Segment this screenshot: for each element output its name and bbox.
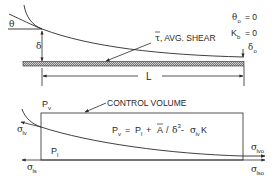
length-label: L xyxy=(146,71,152,82)
svg-text:= 0: = 0 xyxy=(245,28,257,38)
svg-text:δ: δ xyxy=(248,42,253,52)
svg-text:lv: lv xyxy=(196,131,200,137)
kb-condition: K b = 0 xyxy=(231,28,257,40)
sigma-lv-label: σ lv xyxy=(17,124,27,136)
svg-text:lso: lso xyxy=(257,170,265,176)
svg-text:θ: θ xyxy=(232,12,237,22)
svg-text:K: K xyxy=(201,125,207,135)
svg-text:l: l xyxy=(141,131,142,137)
delta-label: δ xyxy=(36,41,41,51)
svg-text:/: / xyxy=(166,125,169,135)
svg-text:v: v xyxy=(48,105,51,111)
theta-o-condition: θ o = 0 xyxy=(232,12,257,24)
pv-label: P v xyxy=(42,99,51,111)
top-panel: θ δ L τ , AVG. SHEAR θ o = 0 K b = 0 δ o xyxy=(8,5,258,86)
svg-text:=: = xyxy=(125,125,130,135)
svg-text:-: - xyxy=(181,125,184,135)
svg-text:A: A xyxy=(157,125,163,135)
pressure-equation: P v = P l + A / δ 3 - σ lv K xyxy=(112,123,207,137)
svg-text:o: o xyxy=(254,48,258,54)
control-volume-label: CONTROL VOLUME xyxy=(107,98,187,108)
sigma-ls-label: σ ls xyxy=(27,162,37,174)
meniscus-control-volume-diagram: θ δ L τ , AVG. SHEAR θ o = 0 K b = 0 δ o xyxy=(0,0,278,180)
delta-o-label: δ o xyxy=(248,42,258,54)
svg-text:o: o xyxy=(238,18,242,24)
control-volume-film-curve xyxy=(22,109,265,156)
theta-label: θ xyxy=(9,19,14,29)
svg-text:ls: ls xyxy=(33,168,37,174)
svg-text:+: + xyxy=(146,125,151,135)
shear-leader-arrow xyxy=(106,43,151,61)
svg-text:v: v xyxy=(118,131,121,137)
svg-text:lvo: lvo xyxy=(257,148,265,154)
svg-text:lv: lv xyxy=(23,130,27,136)
control-volume-leader xyxy=(85,103,106,112)
sigma-lv-arrow xyxy=(21,122,41,127)
bottom-panel: P v CONTROL VOLUME P v = P l + A / δ 3 -… xyxy=(17,98,265,176)
sigma-lvo-label: σ lvo xyxy=(251,142,265,154)
svg-text:b: b xyxy=(237,34,241,40)
hatched-plate xyxy=(23,62,244,67)
svg-text:l: l xyxy=(57,152,58,158)
pl-label: P l xyxy=(51,146,58,158)
svg-text:= 0: = 0 xyxy=(245,12,257,22)
shear-text: , AVG. SHEAR xyxy=(160,33,216,43)
sigma-lso-label: σ lso xyxy=(251,164,265,176)
